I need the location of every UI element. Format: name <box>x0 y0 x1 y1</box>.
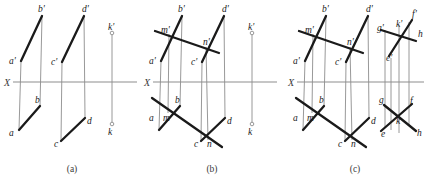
point-label-c-prime: c' <box>191 57 198 67</box>
cd-segment <box>345 118 369 141</box>
point-label-m-prime: m' <box>305 25 315 35</box>
connector-c-line <box>345 62 346 141</box>
connector-b-line <box>324 16 326 106</box>
point-label-b: b <box>35 95 40 105</box>
point-label-c-prime: c' <box>51 57 58 67</box>
connector-n-line <box>350 47 352 140</box>
connector-d-line <box>84 16 85 118</box>
point-label-k: k <box>248 127 253 137</box>
point-label-c: c <box>338 139 343 149</box>
point-label-n: n <box>351 139 356 149</box>
point-label-b-prime: b' <box>38 4 46 14</box>
connector-a-line <box>303 61 305 130</box>
panel-caption-0: (a) <box>67 164 78 175</box>
point-label-k-prime: k' <box>108 22 115 32</box>
point-label-a-prime: a' <box>149 56 157 66</box>
point-label-d: d <box>87 116 92 126</box>
point-label-f-prime: f' <box>412 9 418 19</box>
cd-segment <box>61 118 85 141</box>
cd-prime-segment <box>62 16 84 62</box>
connector-c-line <box>61 62 62 141</box>
panel-c: Xb'd'f'm'g'k'hn'a'c'e'bgfamdkehcn <box>287 4 424 149</box>
point-label-c: c <box>54 139 59 149</box>
connector-d-line <box>224 16 225 118</box>
connector-a-line <box>159 61 161 130</box>
point-label-d-prime: d' <box>82 4 90 14</box>
point-label-d-prime: d' <box>366 4 374 14</box>
point-label-e: e <box>381 129 385 139</box>
point-label-m: m <box>163 113 170 123</box>
point-label-d: d <box>371 116 376 126</box>
descriptive-geometry-figure: Xb'd'k'a'c'badckXb'd'k'm'n'a'c'bamdcnkXb… <box>0 0 427 179</box>
point-label-d: d <box>227 116 232 126</box>
point-label-c: c <box>194 139 199 149</box>
point-label-a: a <box>9 128 14 138</box>
panel-caption-1: (b) <box>206 164 217 175</box>
connector-b-line <box>180 16 182 106</box>
point-label-k: k <box>108 127 113 137</box>
point-label-d-prime: d' <box>222 4 230 14</box>
k-marker <box>250 122 254 126</box>
x-axis-label: X <box>3 77 11 88</box>
ab-prime-segment <box>21 16 42 61</box>
point-label-h: h <box>418 29 423 39</box>
point-label-b-prime: b' <box>178 4 186 14</box>
panel-b: Xb'd'k'm'n'a'c'bamdcnk <box>143 4 277 149</box>
point-label-k-prime: k' <box>396 19 403 29</box>
connector-c-line <box>201 62 202 141</box>
point-label-a-prime: a' <box>9 56 17 66</box>
connector-a-line <box>19 61 21 130</box>
connector-b-line <box>40 16 42 106</box>
connector-n-line <box>206 47 208 140</box>
point-label-n: n <box>207 139 212 149</box>
ab-segment <box>19 106 40 130</box>
point-label-n-prime: n' <box>203 37 211 47</box>
point-label-b: b <box>319 95 324 105</box>
panel-caption-2: (c) <box>350 164 361 175</box>
connector-d-line <box>368 16 369 118</box>
point-label-k-prime: k' <box>248 22 255 32</box>
point-label-m: m <box>307 113 314 123</box>
point-label-g-prime: g' <box>377 23 385 33</box>
k-marker <box>110 122 114 126</box>
point-label-h: h <box>417 128 422 138</box>
point-label-m-prime: m' <box>161 25 171 35</box>
cd-segment <box>201 118 225 141</box>
point-label-a: a <box>149 113 154 123</box>
point-label-n-prime: n' <box>347 37 355 47</box>
panel-a: Xb'd'k'a'c'badck <box>3 4 137 149</box>
point-label-b: b <box>175 95 180 105</box>
x-axis-label: X <box>287 77 295 88</box>
point-label-e-prime: e' <box>386 53 393 63</box>
point-label-g: g <box>379 95 384 105</box>
point-label-f: f <box>410 96 414 106</box>
point-label-a-prime: a' <box>293 56 301 66</box>
point-label-c-prime: c' <box>335 57 342 67</box>
point-label-a: a <box>293 113 298 123</box>
x-axis-label: X <box>143 77 151 88</box>
figure-root: Xb'd'k'a'c'badckXb'd'k'm'n'a'c'bamdcnkXb… <box>0 0 427 179</box>
point-label-b-prime: b' <box>322 4 330 14</box>
